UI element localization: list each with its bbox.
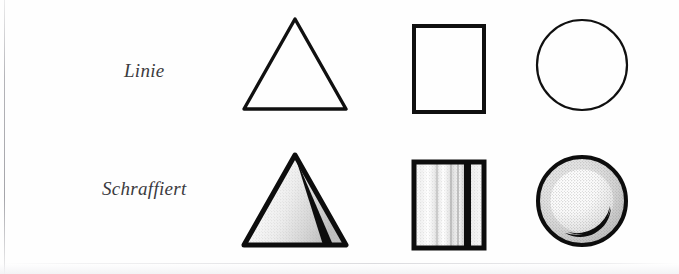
rectangle-outline-path [414, 26, 484, 112]
rectangle-stripe-stipple [414, 162, 484, 248]
shape-triangle-outline [238, 12, 356, 120]
shape-circle-hatched [532, 150, 636, 254]
rectangle-stripe-c [457, 162, 459, 248]
scan-edge-tint-bottom [0, 264, 679, 274]
row-label-schraffiert: Schraffiert [102, 178, 187, 200]
scan-edge-rule-left [4, 0, 5, 274]
shape-rectangle-hatched [408, 154, 494, 254]
triangle-outline-path [244, 19, 346, 109]
shape-circle-outline [532, 14, 636, 118]
shape-triangle-hatched [238, 148, 356, 256]
figure-canvas: Linie Schraffiert [0, 0, 679, 274]
rectangle-stripe-a [436, 162, 438, 248]
triangle-hatch-stipple [244, 155, 346, 245]
rectangle-stripe-b [450, 162, 452, 248]
rectangle-accent-bar [464, 162, 471, 248]
circle-outline-path [537, 20, 627, 110]
row-label-linie: Linie [124, 60, 165, 82]
shape-rectangle-outline [408, 18, 494, 118]
